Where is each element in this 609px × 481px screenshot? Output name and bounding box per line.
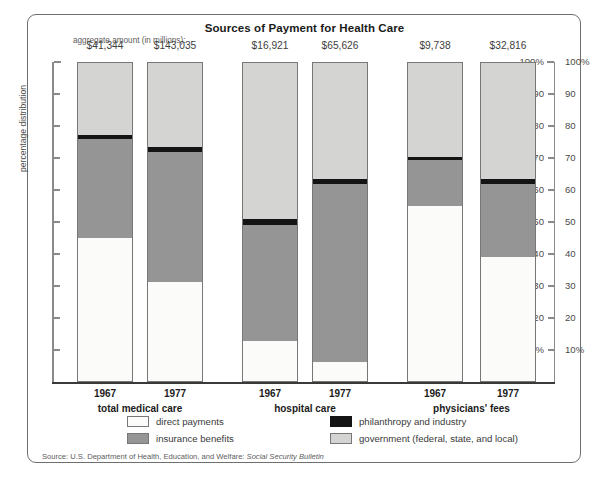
y-tick-l-90 [54,93,60,94]
y-tick-l-100 [54,61,61,63]
bar-segment-gov [78,63,132,135]
plot-area: percentage distribution 100%100%90908080… [52,62,555,382]
bar-segment-insurance [481,184,535,257]
y-tick-label-r-40: 40 [565,248,605,259]
y-tick-l-70 [54,157,60,158]
y-tick-r-70 [548,157,554,158]
bar-segment-insurance [313,184,367,362]
chart-title: Sources of Payment for Health Care [0,22,609,34]
chart-page: Sources of Payment for Health Care aggre… [0,0,609,481]
bar-segment-direct [481,257,535,381]
legend-label: insurance benefits [156,433,234,444]
bar-5[interactable] [407,62,463,382]
y-axis-right [554,62,556,382]
y-tick-label-r-100: 100% [565,56,605,67]
bar-segment-gov [148,63,202,147]
x-axis-group-label: total medical care [60,403,220,414]
source-text: Source: U.S. Department of Health, Educa… [42,452,247,461]
legend-item-phil[interactable]: philanthropy and industry [330,416,466,427]
y-tick-l-30 [54,285,60,286]
bar-segment-insurance [148,152,202,282]
x-axis-year-label: 1977 [480,388,536,399]
aggregate-amount-value: $41,344 [77,40,133,51]
legend-item-gov[interactable]: government (federal, state, and local) [330,433,518,444]
y-tick-label-r-20: 20 [565,312,605,323]
bar-segment-direct [148,282,202,381]
y-tick-l-20 [54,317,60,318]
x-axis-year-label: 1977 [147,388,203,399]
y-tick-label-r-30: 30 [565,280,605,291]
y-tick-r-90 [548,93,554,94]
y-tick-l-40 [54,253,60,254]
y-tick-label-r-80: 80 [565,120,605,131]
aggregate-amount-value: $9,738 [407,40,463,51]
x-axis-group-label: hospital care [225,403,385,414]
bar-4[interactable] [312,62,368,382]
aggregate-amount-value: $32,816 [480,40,536,51]
bar-6[interactable] [480,62,536,382]
y-tick-r-40 [548,253,554,254]
y-tick-l-10 [54,349,60,350]
bar-segment-direct [313,362,367,381]
aggregate-amount-value: $65,626 [312,40,368,51]
bar-1[interactable] [77,62,133,382]
y-tick-label-r-60: 60 [565,184,605,195]
y-tick-l-50 [54,221,60,222]
bar-segment-insurance [243,225,297,341]
x-axis-group-label: physicians' fees [392,403,552,414]
legend-label: philanthropy and industry [359,416,466,427]
x-axis-year-label: 1977 [312,388,368,399]
aggregate-amount-value: $16,921 [242,40,298,51]
y-tick-r-20 [548,317,554,318]
y-tick-l-80 [54,125,60,126]
bar-segment-gov [481,63,535,179]
x-axis-year-label: 1967 [407,388,463,399]
legend-swatch-insurance-icon [127,433,149,444]
bar-3[interactable] [242,62,298,382]
y-tick-label-r-70: 70 [565,152,605,163]
y-axis-label: percentage distribution [18,32,28,172]
legend-swatch-gov-icon [330,433,352,444]
y-tick-label-r-10: 10% [565,344,605,355]
bar-segment-direct [408,206,462,381]
y-tick-label-r-90: 90 [565,88,605,99]
bar-segment-gov [243,63,297,219]
bar-segment-gov [313,63,367,179]
aggregate-amount-value: $143,035 [147,40,203,51]
y-tick-r-60 [548,189,554,190]
legend-swatch-phil-icon [330,416,352,427]
bar-segment-gov [408,63,462,157]
x-axis-year-label: 1967 [77,388,133,399]
bar-2[interactable] [147,62,203,382]
legend-swatch-direct-icon [127,416,149,427]
y-tick-r-30 [548,285,554,286]
bar-segment-direct [243,341,297,381]
x-axis-year-label: 1967 [242,388,298,399]
chart-legend: direct paymentsinsurance benefitsphilant… [0,416,609,450]
y-tick-l-60 [54,189,60,190]
legend-label: government (federal, state, and local) [359,433,518,444]
source-note: Source: U.S. Department of Health, Educa… [42,452,324,461]
y-tick-r-10 [548,349,554,350]
legend-item-insurance[interactable]: insurance benefits [127,433,234,444]
x-axis-baseline [52,382,555,384]
y-tick-r-100 [547,61,554,63]
y-tick-label-r-50: 50 [565,216,605,227]
legend-item-direct[interactable]: direct payments [127,416,224,427]
bar-segment-direct [78,238,132,381]
legend-label: direct payments [156,416,224,427]
bar-segment-insurance [78,139,132,238]
y-tick-r-50 [548,221,554,222]
y-tick-r-80 [548,125,554,126]
bar-segment-insurance [408,160,462,206]
source-publication: Social Security Bulletin [247,452,324,461]
